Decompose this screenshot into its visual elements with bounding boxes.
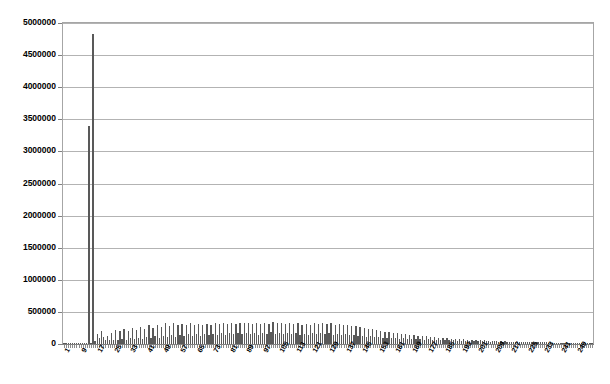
bar	[165, 323, 166, 344]
x-axis-tick-mark	[157, 345, 158, 348]
x-axis-tick-mark	[507, 345, 508, 348]
y-axis-tick-mark	[58, 23, 62, 24]
bar	[119, 331, 120, 344]
bar	[372, 329, 373, 344]
x-axis-tick-mark	[375, 345, 376, 348]
x-axis-tick-mark	[439, 345, 440, 348]
bar	[123, 329, 124, 344]
bar	[347, 325, 348, 344]
x-axis-tick-mark	[505, 345, 506, 348]
y-axis-tick-mark	[58, 312, 62, 313]
x-axis-tick-mark	[555, 345, 556, 348]
x-axis-tick-mark	[294, 345, 295, 348]
y-axis-tick-mark	[58, 151, 62, 152]
bar	[359, 327, 360, 344]
y-axis-tick-mark	[58, 119, 62, 120]
x-axis-tick-mark	[141, 345, 142, 348]
bar	[198, 324, 199, 344]
x-axis-tick-mark	[124, 345, 125, 348]
x-axis-tick-mark	[344, 345, 345, 348]
bar	[115, 330, 116, 344]
x-axis-tick-label: 73	[212, 344, 222, 354]
x-axis-tick-mark	[76, 345, 77, 348]
bar	[161, 327, 162, 344]
bar	[355, 326, 356, 344]
bar	[152, 328, 153, 344]
y-axis-tick-label: 2000000	[0, 210, 56, 220]
y-axis-tick-label: 4000000	[0, 81, 56, 91]
x-axis-tick-mark	[455, 345, 456, 348]
bar	[215, 323, 216, 344]
x-axis-tick-mark	[488, 345, 489, 348]
bar	[393, 333, 394, 344]
x-axis-tick-mark	[190, 345, 191, 348]
x-axis-tick-mark	[323, 345, 324, 348]
x-axis-tick-mark	[391, 345, 392, 348]
x-axis-tick-mark	[275, 345, 276, 348]
x-axis-tick-mark	[557, 345, 558, 348]
bar	[111, 333, 112, 344]
x-axis-tick-mark	[373, 345, 374, 348]
x-axis-tick-mark	[339, 345, 340, 348]
bar	[157, 325, 158, 344]
x-axis-tick-mark	[538, 345, 539, 348]
bar	[405, 334, 406, 344]
x-axis-tick-mark	[87, 345, 88, 348]
bar	[322, 323, 323, 345]
x-axis-tick-mark	[441, 345, 442, 348]
x-axis-tick-mark	[240, 345, 241, 348]
x-axis-tick-mark	[226, 345, 227, 348]
x-axis-tick-mark	[588, 345, 589, 348]
x-axis-tick-label: 17	[96, 344, 106, 354]
bar	[206, 324, 207, 344]
x-axis-tick-mark	[524, 345, 525, 348]
bar	[297, 323, 298, 344]
x-axis-tick-mark	[91, 345, 92, 348]
bar	[231, 323, 232, 344]
x-axis-tick-mark	[89, 345, 90, 348]
x-axis-tick-mark	[325, 345, 326, 348]
y-axis-tick-mark	[58, 280, 62, 281]
x-axis-tick-mark	[377, 345, 378, 348]
bar	[388, 332, 389, 344]
bar	[343, 325, 344, 344]
bar-series	[63, 23, 593, 344]
x-axis-tick-mark	[590, 345, 591, 348]
y-axis-tick-mark	[58, 248, 62, 249]
bar	[260, 324, 261, 344]
x-axis-tick-mark	[341, 345, 342, 348]
bar	[128, 331, 129, 344]
x-axis-tick-mark	[261, 345, 262, 348]
bar	[186, 325, 187, 344]
x-axis-tick-mark	[559, 345, 560, 348]
x-axis-tick-mark	[290, 345, 291, 348]
x-axis-tick-mark	[145, 345, 146, 348]
x-axis-tick-mark	[457, 345, 458, 348]
bar	[103, 337, 104, 344]
x-axis-tick-mark	[174, 345, 175, 348]
bar	[144, 329, 145, 344]
bar	[239, 323, 240, 345]
x-axis-tick-mark	[406, 345, 407, 348]
bar	[136, 330, 137, 344]
bar	[190, 323, 191, 344]
x-axis-tick-mark	[292, 345, 293, 348]
x-axis-tick-mark	[228, 345, 229, 348]
bar	[272, 322, 273, 344]
x-axis-tick-mark	[491, 345, 492, 348]
x-axis-tick-mark	[257, 345, 258, 348]
bar	[202, 325, 203, 344]
bar	[194, 325, 195, 344]
x-axis-tick-mark	[93, 345, 94, 348]
x-axis-tick-mark	[178, 345, 179, 348]
bar	[173, 323, 174, 345]
x-axis-tick-mark	[223, 345, 224, 348]
y-axis-tick-label: 1000000	[0, 274, 56, 284]
x-axis-tick-mark	[159, 345, 160, 348]
x-axis-tick-mark	[408, 345, 409, 348]
x-axis-tick-mark	[389, 345, 390, 348]
bar	[169, 326, 170, 344]
x-axis-tick-label: 89	[245, 344, 255, 354]
bar	[426, 336, 427, 344]
bar	[181, 324, 182, 344]
